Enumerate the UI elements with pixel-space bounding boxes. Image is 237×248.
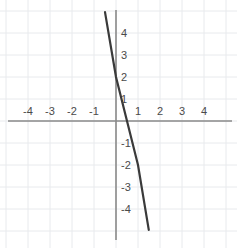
coordinate-plane-figure: -4-3-2-11234 4321-1-2-3-4 xyxy=(0,0,237,248)
x-tick-label-neg4: -4 xyxy=(23,106,33,117)
y-tick-label-neg4: -4 xyxy=(121,204,131,215)
grid-lines xyxy=(0,0,237,248)
y-tick-label-2: 2 xyxy=(121,72,127,83)
y-tick-label-neg1: -1 xyxy=(121,138,131,149)
plot-canvas xyxy=(0,0,237,248)
x-tick-label-2: 2 xyxy=(157,106,163,117)
x-tick-label-neg3: -3 xyxy=(45,106,55,117)
y-tick-label-1: 1 xyxy=(121,94,127,105)
x-tick-label-3: 3 xyxy=(179,106,185,117)
y-tick-label-3: 3 xyxy=(121,50,127,61)
x-tick-label-neg2: -2 xyxy=(67,106,77,117)
x-tick-label-1: 1 xyxy=(135,106,141,117)
x-tick-label-neg1: -1 xyxy=(89,106,99,117)
axis-lines xyxy=(8,10,232,240)
y-tick-label-4: 4 xyxy=(121,28,127,39)
x-tick-label-4: 4 xyxy=(201,106,207,117)
y-tick-label-neg2: -2 xyxy=(121,160,131,171)
y-tick-label-neg3: -3 xyxy=(121,182,131,193)
